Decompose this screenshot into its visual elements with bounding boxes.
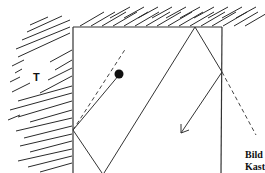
hatch-stroke — [55, 60, 72, 70]
hatch-stroke — [20, 134, 72, 146]
hatch-stroke — [157, 12, 181, 26]
hatch-stroke — [91, 12, 115, 26]
caption-line-2: Kast — [245, 161, 265, 172]
region-label-T: T — [33, 71, 40, 83]
hatch-stroke — [18, 86, 72, 101]
hatch-stroke — [8, 115, 20, 120]
ball — [115, 70, 124, 79]
hatch-stroke — [10, 93, 72, 110]
billiard-reflection-diagram: T Bild Kast — [0, 0, 265, 173]
hatch-stroke — [16, 118, 72, 131]
hatch-stroke — [102, 12, 126, 26]
caption-line-1: Bild — [245, 149, 263, 160]
dashed-mirror-line-left — [73, 48, 126, 130]
hatch-stroke — [12, 60, 24, 66]
hatch-stroke — [15, 69, 22, 73]
table-right-edge — [221, 27, 222, 173]
hatch-stroke — [80, 12, 104, 26]
dashed-mirror-line-right — [222, 72, 256, 135]
hatch-stroke — [135, 12, 159, 26]
trajectory-segment-2 — [73, 130, 102, 173]
trajectory-segment-5 — [181, 72, 222, 133]
hatch-stroke — [18, 149, 72, 161]
hatch-stroke — [201, 12, 225, 26]
hatch-stroke — [234, 12, 258, 26]
hatched-wall — [8, 7, 265, 172]
trajectory-segment-1 — [73, 75, 119, 130]
hatch-stroke — [179, 12, 203, 26]
hatch-stroke — [40, 163, 72, 172]
hatch-stroke — [168, 12, 192, 26]
trajectory-segment-3 — [104, 27, 195, 173]
hatch-stroke — [10, 77, 20, 82]
trajectory-segment-4 — [195, 27, 222, 72]
hatch-stroke — [146, 12, 170, 26]
hatch-stroke — [18, 101, 72, 117]
hatch-stroke — [50, 50, 72, 62]
hatch-stroke — [12, 83, 30, 92]
